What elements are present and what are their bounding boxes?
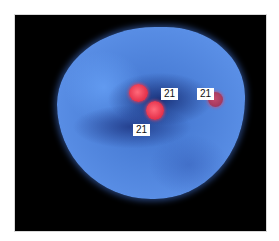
micrograph-frame: 21 21 21 <box>15 15 266 231</box>
signal-label: 21 <box>197 88 214 100</box>
fish-signal-1 <box>129 84 148 102</box>
signal-label: 21 <box>161 88 178 100</box>
signal-label: 21 <box>133 124 150 136</box>
fish-signal-2 <box>146 101 164 120</box>
